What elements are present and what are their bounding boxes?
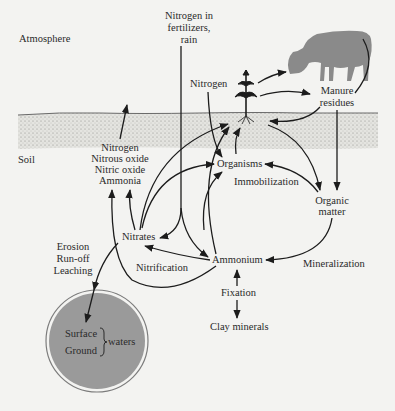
node-organisms: Organisms [217,158,262,169]
node-erosion: Erosion Run-off Leaching [53,241,93,276]
waters-group-label: waters [108,336,135,347]
svg-text:residues: residues [320,97,354,108]
node-gases: Nitrogen Nitrous oxide Nitric oxide Ammo… [91,142,149,186]
arrow-fertilizer-to-nitrates [160,208,181,238]
svg-text:Nitrogen: Nitrogen [101,142,139,153]
svg-text:Manure: Manure [321,85,354,96]
process-immobilization: Immobilization [234,176,299,187]
node-organic-matter: Organic matter [315,195,349,217]
node-nitrogen-atmospheric: Nitrogen [190,78,228,89]
arrow-nitrates-to-waters [94,243,118,290]
arrow-nitrates-to-gases [130,190,135,230]
arrow-plant-to-manure [260,91,310,96]
water-body-icon: Surface Ground waters [46,290,148,392]
svg-text:Organic: Organic [315,195,349,206]
svg-text:Nitrous oxide: Nitrous oxide [91,153,149,164]
svg-text:Ammonia: Ammonia [99,175,141,186]
arrow-organic-matter-to-ammonium [266,218,332,260]
arrow-ammonium-to-organisms [203,172,222,230]
process-nitrification: Nitrification [136,262,189,273]
svg-text:Run-off: Run-off [56,253,90,264]
arrow-ammonium-to-nitrates [145,246,210,260]
process-fixation: Fixation [221,287,257,298]
process-mineralization: Mineralization [303,258,366,269]
svg-text:matter: matter [319,206,346,217]
node-nitrates: Nitrates [122,231,155,242]
svg-text:Nitrogen in: Nitrogen in [165,10,214,21]
svg-text:Nitric oxide: Nitric oxide [95,164,146,175]
atmosphere-label: Atmosphere [19,33,71,44]
cow-icon [288,31,372,81]
node-manure-residues: Manure residues [320,85,354,108]
svg-text:rain: rain [181,34,198,45]
svg-text:Erosion: Erosion [57,241,90,252]
water-surface-label: Surface [65,328,97,339]
arrow-plant-to-cow [258,72,286,83]
node-nitrogen-fertilizers: Nitrogen in fertilizers, rain [165,10,214,45]
soil-layer [18,113,378,150]
water-ground-label: Ground [65,345,98,356]
node-ammonium: Ammonium [212,254,263,265]
nitrogen-cycle-diagram: Atmosphere Soil Nitrogen in fertilizers,… [0,0,395,411]
soil-label: Soil [18,154,35,165]
node-clay-minerals: Clay minerals [210,321,269,332]
svg-text:fertilizers,: fertilizers, [168,22,211,33]
svg-text:Leaching: Leaching [53,265,93,276]
